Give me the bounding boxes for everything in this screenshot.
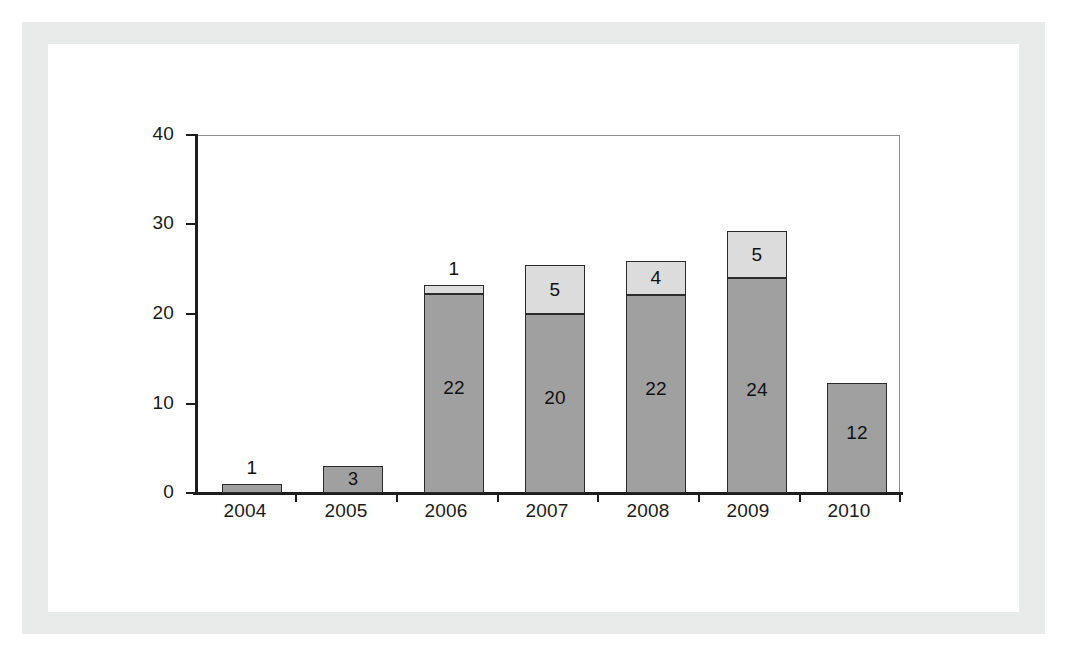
bar-group-2004[interactable]: 1 1 xyxy=(222,135,282,493)
bar-segment-lower-2010[interactable]: 12 xyxy=(827,383,887,493)
y-tick-20 xyxy=(186,313,196,315)
bar-segment-lower-2006[interactable]: 22 xyxy=(424,294,484,493)
x-tick-label-2009: 2009 xyxy=(698,500,798,522)
y-tick-label-10: 10 xyxy=(130,392,174,414)
bar-segment-upper-2008[interactable]: 4 xyxy=(626,261,686,295)
y-tick-label-30: 30 xyxy=(130,212,174,234)
bar-segment-upper-2006[interactable] xyxy=(424,285,484,294)
y-tick-label-0: 0 xyxy=(130,481,174,503)
x-tick-boundary-6 xyxy=(899,493,901,502)
y-tick-40 xyxy=(186,134,196,136)
bar-group-2009[interactable]: 5 24 xyxy=(727,135,787,493)
y-tick-10 xyxy=(186,403,196,405)
bar-group-2006[interactable]: 22 1 xyxy=(424,135,484,493)
bar-group-2008[interactable]: 4 22 xyxy=(626,135,686,493)
y-tick-label-40: 40 xyxy=(130,123,174,145)
bar-label-above-2004: 1 xyxy=(222,457,282,479)
bar-segment-lower-2005[interactable]: 3 xyxy=(323,466,383,493)
bar-segment-lower-2004[interactable]: 1 xyxy=(222,484,282,493)
stacked-bar-chart: 40 30 20 10 0 2004 2005 2006 2007 2008 2… xyxy=(0,0,1067,657)
bar-segment-upper-2009[interactable]: 5 xyxy=(727,231,787,278)
page-frame: 40 30 20 10 0 2004 2005 2006 2007 2008 2… xyxy=(0,0,1067,657)
x-tick-label-2010: 2010 xyxy=(799,500,899,522)
bar-group-2005[interactable]: 3 xyxy=(323,135,383,493)
bar-group-2010[interactable]: 12 xyxy=(827,135,887,493)
y-tick-label-20: 20 xyxy=(130,302,174,324)
bar-segment-lower-2007[interactable]: 20 xyxy=(525,314,585,493)
bar-segment-upper-2007[interactable]: 5 xyxy=(525,265,585,314)
x-tick-label-2007: 2007 xyxy=(497,500,597,522)
y-tick-0 xyxy=(186,492,196,494)
bar-group-2007[interactable]: 5 20 xyxy=(525,135,585,493)
x-tick-label-2004: 2004 xyxy=(195,500,295,522)
bar-label-above-2006: 1 xyxy=(424,258,484,280)
x-tick-label-2005: 2005 xyxy=(296,500,396,522)
bar-segment-lower-2008[interactable]: 22 xyxy=(626,295,686,493)
x-tick-label-2008: 2008 xyxy=(598,500,698,522)
x-tick-label-2006: 2006 xyxy=(396,500,496,522)
bar-segment-lower-2009[interactable]: 24 xyxy=(727,278,787,493)
y-tick-30 xyxy=(186,223,196,225)
